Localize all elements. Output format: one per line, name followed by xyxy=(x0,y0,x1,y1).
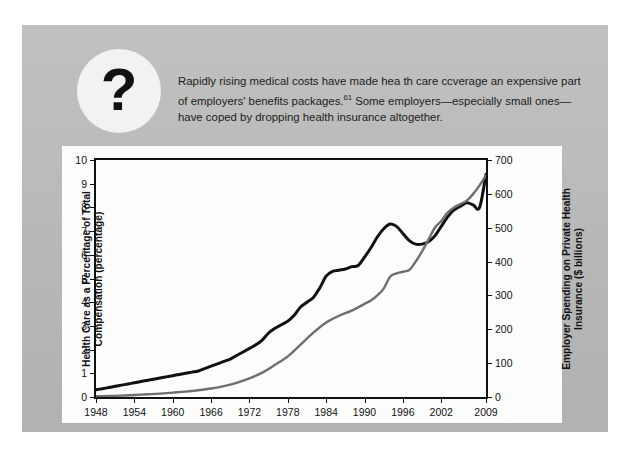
y-tick-label-right: 300 xyxy=(495,289,513,301)
y-tick-left xyxy=(90,160,96,161)
series-line-1 xyxy=(96,175,486,396)
x-tick-label: 1960 xyxy=(161,406,184,418)
x-tick-label: 2009 xyxy=(474,406,497,418)
chart-lines xyxy=(96,160,486,397)
y-tick-label-right: 400 xyxy=(495,256,513,268)
right-axis-title: Employer Spending on Private Health Insu… xyxy=(561,164,586,394)
x-tick-label: 1948 xyxy=(84,406,107,418)
y-tick-right xyxy=(486,160,492,161)
x-tick-label: 1978 xyxy=(276,406,299,418)
y-tick-label-right: 600 xyxy=(495,188,513,200)
y-tick-label-right: 500 xyxy=(495,222,513,234)
x-tick-label: 1954 xyxy=(123,406,146,418)
x-tick-label: 1966 xyxy=(199,406,222,418)
x-tick xyxy=(326,397,327,403)
x-tick xyxy=(365,397,366,403)
figure-root: ? Rapidly rising medical costs have made… xyxy=(0,0,630,458)
question-mark-glyph: ? xyxy=(77,49,161,133)
y-tick-right xyxy=(486,295,492,296)
left-axis-title: Health Care as a Percentage of Total Com… xyxy=(81,164,106,394)
x-tick xyxy=(96,397,97,403)
question-mark-icon: ? xyxy=(77,49,161,133)
x-tick xyxy=(486,397,487,403)
x-tick xyxy=(288,397,289,403)
x-tick xyxy=(403,397,404,403)
y-tick-label-right: 200 xyxy=(495,323,513,335)
x-tick xyxy=(249,397,250,403)
x-tick-label: 1972 xyxy=(238,406,261,418)
y-tick-label-right: 0 xyxy=(495,391,501,403)
y-tick-right xyxy=(486,228,492,229)
x-tick-label: 2002 xyxy=(430,406,453,418)
y-tick-right xyxy=(486,262,492,263)
footnote-marker: 61 xyxy=(344,93,352,102)
x-tick xyxy=(134,397,135,403)
x-tick-label: 1996 xyxy=(391,406,414,418)
y-tick-right xyxy=(486,329,492,330)
plot-inner xyxy=(96,160,486,397)
y-tick-right xyxy=(486,194,492,195)
plot-area: 012345678910 0100200300400500600700 1948… xyxy=(94,158,488,399)
x-tick xyxy=(441,397,442,403)
y-tick-label-right: 700 xyxy=(495,154,513,166)
x-tick-label: 1990 xyxy=(353,406,376,418)
series-line-0 xyxy=(96,174,486,390)
y-tick-right xyxy=(486,363,492,364)
y-tick-label-right: 100 xyxy=(495,357,513,369)
x-tick xyxy=(211,397,212,403)
x-tick-label: 1984 xyxy=(314,406,337,418)
chart-card: 012345678910 0100200300400500600700 1948… xyxy=(62,146,562,423)
intro-paragraph: Rapidly rising medical costs have made h… xyxy=(178,73,592,124)
x-tick xyxy=(173,397,174,403)
